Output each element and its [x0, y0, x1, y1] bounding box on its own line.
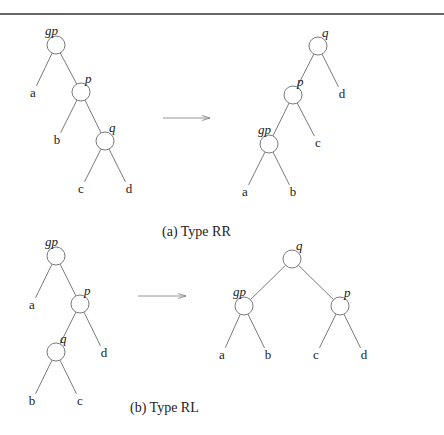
edge-p-b: [61, 100, 77, 133]
leaf-label-d: d: [101, 345, 108, 360]
node-label-p: p: [84, 71, 92, 86]
node-label-p: p: [83, 283, 91, 298]
leaf-label-c: c: [77, 393, 83, 408]
node-label-p: p: [296, 74, 304, 89]
leaf-label-a: a: [29, 297, 35, 312]
leaf-label-c: c: [315, 135, 321, 150]
edge-p-q: [85, 100, 101, 133]
leaf-label-d: d: [126, 181, 133, 196]
edge-gp-b: [248, 314, 265, 348]
edge-gp-a: [225, 314, 240, 347]
node-label-gp: gp: [258, 122, 272, 137]
node-gp: [47, 36, 65, 54]
edge-q-d: [322, 54, 338, 87]
leaf-label-a: a: [242, 184, 248, 199]
node-label-gp: gp: [233, 284, 247, 299]
edge-q-p: [298, 265, 333, 299]
edge-gp-a: [36, 264, 53, 298]
panel-b-before-tree: gppqadbc: [29, 234, 108, 408]
edge-q-b: [36, 360, 53, 394]
leaf-label-b: b: [265, 347, 272, 362]
edge-p-c: [320, 314, 337, 348]
edge-p-c: [297, 103, 314, 136]
edge-gp-b: [273, 152, 289, 185]
leaf-label-a: a: [30, 85, 36, 100]
node-label-q: q: [109, 120, 116, 135]
edge-gp-a: [36, 53, 52, 86]
panel-a-after-tree: qpgpdcab: [242, 25, 346, 199]
edge-gp-p: [60, 53, 77, 84]
leaf-label-b: b: [54, 132, 61, 147]
node-label-p: p: [343, 285, 351, 300]
edge-q-c: [85, 149, 101, 182]
edge-p-d: [84, 312, 101, 346]
leaf-label-d: d: [361, 347, 368, 362]
tree-rotation-diagram: gppqabcdqpgpdcabgppqadbcqgppabcd (a) Typ…: [0, 0, 444, 435]
leaf-label-c: c: [78, 181, 84, 196]
node-gp: [47, 247, 65, 265]
leaf-label-b: b: [29, 393, 36, 408]
leaf-label-b: b: [290, 184, 297, 199]
edge-p-d: [344, 314, 361, 348]
panel-b-after-tree: qgppabcd: [219, 238, 368, 362]
node-gp: [235, 297, 253, 315]
node-label-q: q: [296, 238, 303, 253]
edge-q-c: [60, 360, 77, 394]
edge-gp-p: [60, 264, 76, 296]
arrow-icon: [138, 294, 186, 299]
edge-q-gp: [250, 265, 285, 299]
edge-p-gp: [273, 103, 289, 136]
node-label-q: q: [322, 25, 329, 40]
caption-type-rr: (a) Type RR: [162, 224, 231, 240]
panel-a-before-tree: gppqabcd: [30, 23, 133, 196]
leaf-label-c: c: [313, 347, 319, 362]
arrow-icon: [163, 116, 210, 121]
leaf-label-d: d: [339, 86, 346, 101]
leaf-label-a: a: [219, 347, 225, 362]
node-gp: [260, 135, 278, 153]
caption-type-rl: (b) Type RL: [130, 400, 199, 416]
node-label-gp: gp: [45, 234, 59, 249]
edge-q-d: [109, 149, 125, 182]
node-label-gp: gp: [45, 23, 59, 38]
node-label-q: q: [60, 331, 67, 346]
edge-gp-a: [249, 152, 265, 185]
